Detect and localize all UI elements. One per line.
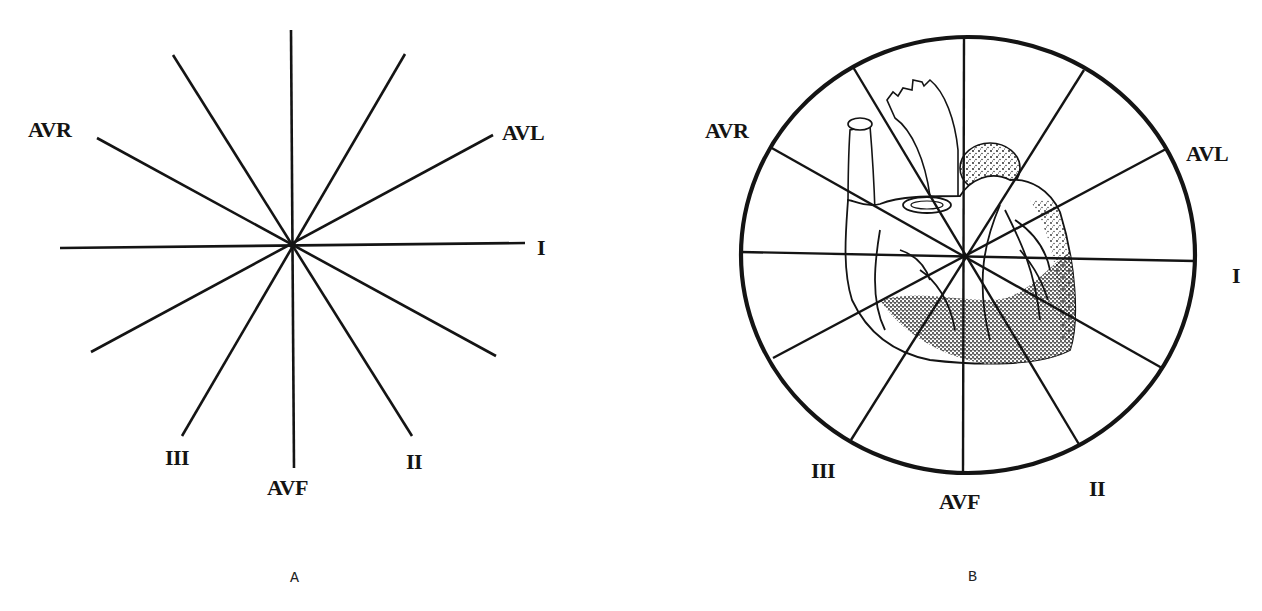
- panel-b-spokes: [741, 37, 1195, 473]
- label-avf: AVF: [267, 477, 308, 499]
- caption-a: A: [290, 571, 299, 586]
- caption-b: B: [968, 570, 977, 585]
- label-i: I: [1232, 265, 1240, 287]
- center-point: [289, 242, 295, 248]
- panel-a-spokes: [0, 0, 620, 611]
- label-iii: III: [165, 447, 189, 469]
- panel-b-figure: [620, 0, 1262, 611]
- label-avl: AVL: [1186, 143, 1228, 165]
- panel-b-heart-hexaxial-diagram: AVR AVL I II III AVF B: [620, 0, 1262, 611]
- panel-a-hexaxial-diagram: AVR AVL I II III AVF A: [0, 0, 620, 611]
- label-avr: AVR: [705, 120, 748, 142]
- label-iii: III: [811, 460, 835, 482]
- label-ii: II: [406, 451, 422, 473]
- label-avl: AVL: [502, 122, 544, 144]
- label-avf: AVF: [939, 491, 980, 513]
- label-i: I: [537, 237, 545, 259]
- label-ii: II: [1089, 478, 1105, 500]
- label-avr: AVR: [28, 119, 71, 141]
